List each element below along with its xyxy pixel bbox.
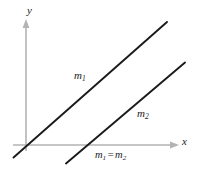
- line-m1-label: m1: [74, 70, 86, 81]
- line-m2-symbol: m: [137, 107, 145, 119]
- x-axis-label: x: [182, 136, 187, 147]
- caption-left-symbol: m: [95, 149, 103, 160]
- line-m2-subscript: 2: [145, 112, 149, 121]
- caption-right-subscript: 2: [123, 154, 127, 162]
- line-m2-label: m2: [137, 108, 149, 119]
- y-axis-label: y: [27, 5, 32, 16]
- slope-figure: y x m1 m2 m1=m2: [0, 0, 201, 176]
- slope-equality-caption: m1=m2: [95, 150, 126, 161]
- caption-operator: =: [106, 149, 115, 160]
- caption-right-symbol: m: [115, 149, 123, 160]
- y-axis-arrow-icon: [23, 19, 30, 28]
- x-axis-arrow-icon: [170, 142, 179, 149]
- line-m1-subscript: 1: [82, 74, 86, 83]
- line-m1-symbol: m: [74, 69, 82, 81]
- line-m1: [14, 22, 168, 158]
